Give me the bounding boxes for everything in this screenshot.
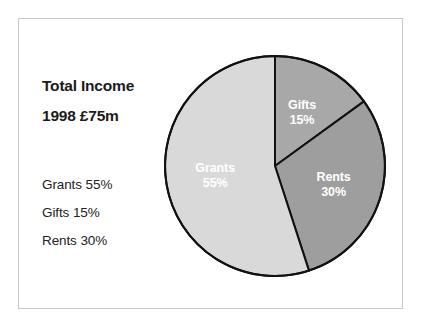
legend-item-rents: Rents 30% [42, 234, 107, 248]
legend-item-grants: Grants 55% [42, 178, 112, 192]
legend-item-gifts: Gifts 15% [42, 206, 100, 220]
chart-title: Total Income [42, 78, 134, 94]
figure-frame [18, 18, 403, 309]
chart-subtitle: 1998 £75m [42, 108, 119, 124]
figure-canvas: Total Income 1998 £75m Grants 55% Gifts … [0, 0, 421, 332]
